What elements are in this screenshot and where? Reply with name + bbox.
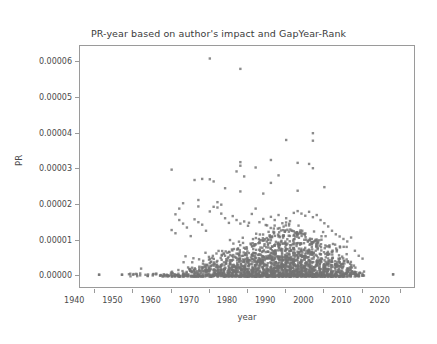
y-tick-label: 0.00005	[39, 92, 72, 101]
y-tick-label: 0.00000	[39, 271, 72, 280]
y-tick-label: 0.00002	[39, 200, 72, 209]
y-tick-mark	[75, 97, 79, 98]
y-tick-label: 0.00003	[39, 164, 72, 173]
x-axis-label: year	[79, 312, 415, 322]
scatter-plot-figure: PR-year based on author's impact and Gap…	[0, 0, 437, 344]
x-tick-label: 1970	[169, 296, 209, 305]
x-tick-mark	[132, 289, 133, 293]
plot-area	[79, 45, 415, 288]
y-tick-label: 0.00006	[39, 57, 72, 66]
y-tick-mark	[75, 61, 79, 62]
x-tick-mark	[94, 289, 95, 293]
x-tick-label: 1980	[207, 296, 247, 305]
x-tick-mark	[247, 289, 248, 293]
y-tick-label: 0.00004	[39, 128, 72, 137]
y-tick-mark	[75, 275, 79, 276]
scatter-points-layer	[80, 46, 415, 288]
y-tick-mark	[75, 204, 79, 205]
x-tick-mark	[285, 289, 286, 293]
x-tick-mark	[209, 289, 210, 293]
x-tick-label: 1990	[245, 296, 285, 305]
y-axis-tick-labels: 0.000000.000010.000020.000030.000040.000…	[0, 0, 72, 344]
x-tick-mark	[171, 289, 172, 293]
x-tick-label: 2020	[360, 296, 400, 305]
y-tick-mark	[75, 240, 79, 241]
x-tick-mark	[323, 289, 324, 293]
x-tick-label: 1940	[54, 296, 94, 305]
x-tick-mark	[362, 289, 363, 293]
x-tick-label: 1960	[131, 296, 171, 305]
y-tick-label: 0.00001	[39, 235, 72, 244]
y-tick-mark	[75, 133, 79, 134]
x-tick-label: 2000	[283, 296, 323, 305]
x-tick-label: 1950	[92, 296, 132, 305]
x-tick-mark	[400, 289, 401, 293]
x-tick-label: 2010	[322, 296, 362, 305]
y-tick-mark	[75, 168, 79, 169]
